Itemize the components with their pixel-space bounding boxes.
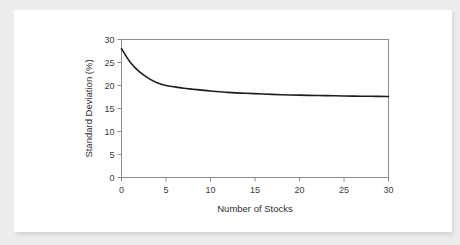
y-tick-label: 5 bbox=[109, 150, 114, 160]
plot-frame bbox=[122, 40, 389, 178]
series-line-portfolio-standard-deviation bbox=[122, 49, 389, 97]
y-axis-title: Standard Deviation (%) bbox=[83, 59, 94, 157]
screenshot-root: 051015202530 051015202530 Number of Stoc… bbox=[0, 0, 460, 245]
y-tick-label: 25 bbox=[104, 58, 114, 68]
x-axis-ticks: 051015202530 bbox=[119, 178, 394, 195]
x-tick-label: 0 bbox=[119, 185, 124, 195]
y-tick-label: 30 bbox=[104, 35, 114, 45]
x-tick-label: 5 bbox=[163, 185, 168, 195]
x-tick-label: 30 bbox=[383, 185, 393, 195]
y-tick-label: 15 bbox=[104, 104, 114, 114]
y-axis-ticks: 051015202530 bbox=[104, 35, 121, 183]
y-tick-label: 10 bbox=[104, 127, 114, 137]
diversification-chart: 051015202530 051015202530 Number of Stoc… bbox=[14, 10, 452, 232]
figure-card: 051015202530 051015202530 Number of Stoc… bbox=[14, 10, 452, 232]
x-tick-label: 20 bbox=[294, 185, 304, 195]
x-tick-label: 25 bbox=[339, 185, 349, 195]
y-tick-label: 0 bbox=[109, 173, 114, 183]
x-axis-title: Number of Stocks bbox=[217, 203, 293, 214]
x-tick-label: 15 bbox=[250, 185, 260, 195]
y-tick-label: 20 bbox=[104, 81, 114, 91]
x-tick-label: 10 bbox=[205, 185, 215, 195]
chart-figure: 051015202530 051015202530 Number of Stoc… bbox=[14, 10, 452, 232]
